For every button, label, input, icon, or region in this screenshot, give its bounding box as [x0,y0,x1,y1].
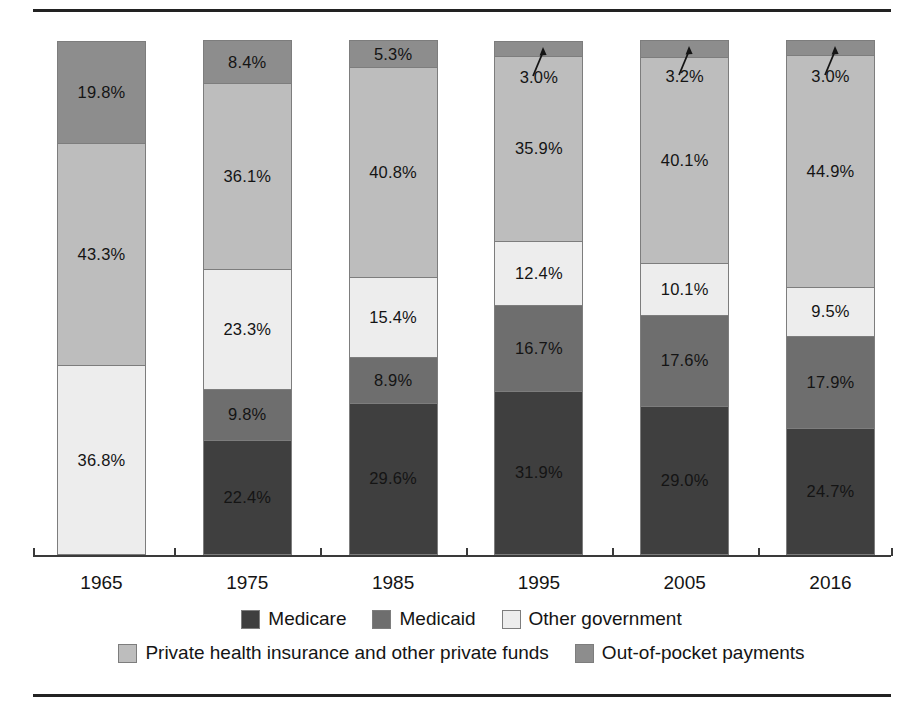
x-axis [0,555,923,569]
segment-value-label: 12.4% [515,264,563,283]
legend-row-secondary: Private health insurance and other priva… [0,642,923,664]
segment-value-label: 24.7% [807,482,855,501]
segment-value-label: 40.1% [661,151,709,170]
segment-value-label: 15.4% [369,308,417,327]
segment-value-label: 36.8% [78,451,126,470]
x-tick-label-2005: 2005 [640,572,729,594]
legend-swatch-icon [575,644,594,663]
legend-item-medicare[interactable]: Medicare [241,608,346,630]
segment-1995-medicaid[interactable]: 16.7% [494,305,583,391]
legend-item-medicaid[interactable]: Medicaid [372,608,475,630]
segment-value-label: 23.3% [223,320,271,339]
segment-value-label: 9.5% [811,302,849,321]
segment-1985-out-of-pocket-payments[interactable]: 5.3% [349,40,438,67]
segment-value-label: 5.3% [374,45,412,64]
segment-value-label: 17.6% [661,351,709,370]
bar-2005[interactable]: 3.2%40.1%10.1%17.6%29.0% [640,40,729,555]
bar-1975[interactable]: 8.4%36.1%23.3%9.8%22.4% [203,40,292,555]
segment-value-label: 10.1% [661,280,709,299]
segment-1975-medicare[interactable]: 22.4% [203,440,292,555]
segment-2016-medicaid[interactable]: 17.9% [786,336,875,428]
segment-value-label: 43.3% [78,245,126,264]
segment-1985-private-health-insurance-and-other-private-funds[interactable]: 40.8% [349,67,438,277]
legend-swatch-icon [118,644,137,663]
segment-value-label: 22.4% [223,488,271,507]
x-tick-label-1985: 1985 [349,572,438,594]
segment-1995-medicare[interactable]: 31.9% [494,391,583,555]
segment-value-label: 36.1% [223,167,271,186]
segment-value-label: 44.9% [807,162,855,181]
segment-value-label: 9.8% [228,405,266,424]
segment-value-label: 3.0% [520,68,558,87]
legend-label: Medicaid [399,608,475,630]
segment-1965-out-of-pocket-payments[interactable]: 19.8% [57,41,146,143]
x-axis-labels: 196519751985199520052016 [0,572,923,602]
bar-1985[interactable]: 5.3%40.8%15.4%8.9%29.6% [349,40,438,555]
segment-value-label: 3.2% [665,67,703,86]
segment-value-label: 17.9% [807,373,855,392]
segment-value-label: 8.9% [374,371,412,390]
figure-top-rule [33,9,891,12]
legend-label: Out-of-pocket payments [602,642,805,664]
segment-value-label: 29.0% [661,471,709,490]
bar-2016[interactable]: 3.0%44.9%9.5%17.9%24.7% [786,40,875,555]
x-tick-label-2016: 2016 [786,572,875,594]
bar-1995[interactable]: 3.0%35.9%12.4%16.7%31.9% [494,40,583,555]
axis-tick-1 [174,548,176,556]
axis-tick-0 [33,548,35,556]
stacked-bar-figure: 19.8%43.3%36.8%8.4%36.1%23.3%9.8%22.4%5.… [0,0,923,717]
segment-1975-medicaid[interactable]: 9.8% [203,389,292,439]
legend-item-other-government[interactable]: Other government [502,608,682,630]
legend-swatch-icon [372,610,391,629]
segment-2005-medicare[interactable]: 29.0% [640,406,729,555]
segment-1965-private-health-insurance-and-other-private-funds[interactable]: 43.3% [57,143,146,366]
segment-1995-out-of-pocket-payments[interactable]: 3.0% [494,41,583,56]
axis-tick-2 [320,548,322,556]
segment-2005-out-of-pocket-payments[interactable]: 3.2% [640,40,729,56]
x-tick-label-1975: 1975 [203,572,292,594]
segment-value-label: 3.0% [811,67,849,86]
segment-value-label: 35.9% [515,139,563,158]
segment-1985-medicare[interactable]: 29.6% [349,403,438,555]
segment-value-label: 19.8% [78,83,126,102]
axis-tick-3 [466,548,468,556]
segment-2016-private-health-insurance-and-other-private-funds[interactable]: 44.9% [786,55,875,286]
legend-swatch-icon [241,610,260,629]
legend-item-out-of-pocket-payments[interactable]: Out-of-pocket payments [575,642,805,664]
segment-1995-other-government[interactable]: 12.4% [494,241,583,305]
segment-value-label: 8.4% [228,53,266,72]
segment-value-label: 31.9% [515,463,563,482]
legend-label: Medicare [268,608,346,630]
segment-1975-private-health-insurance-and-other-private-funds[interactable]: 36.1% [203,83,292,269]
segment-1965-other-government[interactable]: 36.8% [57,365,146,555]
segment-2016-medicare[interactable]: 24.7% [786,428,875,555]
segment-1975-other-government[interactable]: 23.3% [203,269,292,389]
axis-tick-4 [612,548,614,556]
axis-tick-6 [891,548,893,556]
segment-2016-other-government[interactable]: 9.5% [786,287,875,336]
segment-1985-other-government[interactable]: 15.4% [349,277,438,356]
legend-label: Private health insurance and other priva… [145,642,548,664]
legend-label: Other government [529,608,682,630]
figure-bottom-rule [33,694,891,697]
segment-2005-other-government[interactable]: 10.1% [640,263,729,315]
chart-legend: MedicareMedicaidOther government Private… [0,608,923,676]
segment-value-label: 40.8% [369,163,417,182]
legend-swatch-icon [502,610,521,629]
legend-row-primary: MedicareMedicaidOther government [0,608,923,630]
segment-value-label: 16.7% [515,339,563,358]
x-tick-label-1965: 1965 [57,572,146,594]
segment-2016-out-of-pocket-payments[interactable]: 3.0% [786,40,875,55]
segment-1985-medicaid[interactable]: 8.9% [349,357,438,403]
segment-2005-medicaid[interactable]: 17.6% [640,315,729,406]
x-tick-label-1995: 1995 [494,572,583,594]
axis-tick-5 [758,548,760,556]
legend-item-private-health-insurance-and-other-private-funds[interactable]: Private health insurance and other priva… [118,642,548,664]
x-axis-line [33,555,891,557]
segment-value-label: 29.6% [369,469,417,488]
plot-area: 19.8%43.3%36.8%8.4%36.1%23.3%9.8%22.4%5.… [0,40,923,555]
bar-1965[interactable]: 19.8%43.3%36.8% [57,40,146,555]
segment-1975-out-of-pocket-payments[interactable]: 8.4% [203,40,292,83]
segment-2005-private-health-insurance-and-other-private-funds[interactable]: 40.1% [640,57,729,264]
